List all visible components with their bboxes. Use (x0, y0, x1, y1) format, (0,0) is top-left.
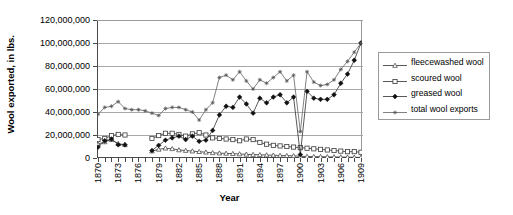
x-axis-tick (267, 158, 268, 162)
x-axis-tick (354, 158, 355, 162)
data-point-asterisk (143, 109, 147, 113)
data-point-diamond-filled (230, 105, 235, 110)
y-axis-tick-label: 100,000,000 (40, 38, 90, 48)
y-axis-tick-label: 0 (85, 153, 90, 163)
data-point-asterisk (103, 105, 107, 109)
x-axis-tick (327, 158, 328, 162)
x-axis-tick (334, 158, 335, 162)
data-point-square-open (197, 131, 201, 135)
series-total-wool-exports (97, 41, 362, 134)
y-axis-title-text: Wool exported, in lbs. (5, 35, 16, 134)
y-axis-tick-label: 40,000,000 (45, 107, 90, 117)
x-axis-tick-labels: 1870187318761879188218851888189118941897… (97, 163, 362, 193)
data-point-square-open (116, 132, 120, 136)
data-point-square-open (97, 138, 100, 142)
data-point-square-open (217, 136, 221, 140)
x-axis-tick (132, 158, 133, 162)
legend-item[interactable]: total wool exports (382, 104, 484, 115)
x-axis-tick (219, 158, 220, 162)
legend-label: fleecewashed wool (411, 57, 484, 68)
data-point-diamond-filled (257, 96, 262, 101)
x-axis-tick (246, 158, 247, 162)
legend-marker-square-open-icon (382, 73, 408, 84)
data-point-square-open (359, 150, 362, 154)
data-point-asterisk (265, 81, 269, 85)
y-axis-tick-labels: 020,000,00040,000,00060,000,00080,000,00… (18, 0, 94, 215)
data-point-asterisk (393, 110, 397, 114)
y-axis-tick-label: 80,000,000 (45, 61, 90, 71)
data-point-asterisk (217, 76, 221, 80)
x-axis-tick (307, 158, 308, 162)
x-axis-tick-label: 1882 (174, 163, 184, 183)
x-axis-tick (192, 158, 193, 162)
x-axis-tick (125, 158, 126, 162)
x-axis-tick (253, 158, 254, 162)
legend-item[interactable]: fleecewashed wool (382, 57, 484, 68)
data-point-asterisk (258, 78, 262, 82)
x-axis-tick (280, 158, 281, 162)
legend-marker-diamond-filled-icon (382, 88, 408, 99)
data-point-square-open (271, 143, 275, 147)
x-axis-tick (159, 158, 160, 162)
data-point-asterisk (170, 105, 174, 109)
x-axis-tick (179, 158, 180, 162)
x-axis-tick-label: 1903 (316, 163, 326, 183)
data-point-square-open (258, 140, 262, 144)
data-point-square-open (123, 133, 127, 137)
legend-item[interactable]: scoured wool (382, 73, 484, 84)
x-axis-tick-label: 1885 (194, 163, 204, 183)
data-point-asterisk (298, 130, 302, 134)
data-point-square-open (339, 149, 343, 153)
data-point-asterisk (157, 113, 161, 117)
x-axis-tick (273, 158, 274, 162)
chart-container: Wool exported, in lbs. 020,000,00040,000… (0, 0, 513, 215)
legend-marker-asterisk-icon (382, 104, 408, 115)
x-axis-tick (260, 158, 261, 162)
x-axis-tick (226, 158, 227, 162)
data-point-square-open (352, 150, 356, 154)
x-axis-tick (145, 158, 146, 162)
data-point-square-open (170, 131, 174, 135)
data-point-square-open (264, 142, 268, 146)
x-axis-tick (213, 158, 214, 162)
data-point-square-open (238, 139, 242, 143)
x-axis-title: Year (97, 192, 362, 203)
chart-legend: fleecewashed woolscoured woolgreased woo… (378, 52, 490, 120)
data-point-diamond-filled (170, 135, 175, 140)
data-point-square-open (312, 147, 316, 151)
chart-series-layer (97, 20, 362, 158)
data-point-square-open (251, 138, 255, 142)
data-point-asterisk (231, 78, 235, 82)
x-axis-tick (321, 158, 322, 162)
x-axis-tick-label: 1906 (336, 163, 346, 183)
legend-label: greased wool (411, 88, 462, 99)
data-point-asterisk (251, 87, 255, 91)
legend-item[interactable]: greased wool (382, 88, 484, 99)
x-axis-tick (186, 158, 187, 162)
x-axis-tick-label: 1897 (275, 163, 285, 183)
x-axis-tick-label: 1888 (214, 163, 224, 183)
data-point-square-open (305, 146, 309, 150)
y-axis-tick-label: 20,000,000 (45, 130, 90, 140)
data-point-diamond-filled (210, 128, 215, 133)
x-axis-tick (152, 158, 153, 162)
data-point-square-open (224, 137, 228, 141)
legend-label: scoured wool (411, 73, 462, 84)
data-point-asterisk (197, 118, 201, 122)
y-axis-title: Wool exported, in lbs. (2, 14, 18, 154)
y-axis-tick-label: 60,000,000 (45, 84, 90, 94)
x-axis-tick (118, 158, 119, 162)
data-point-asterisk (244, 79, 248, 83)
data-point-diamond-filled (325, 97, 330, 102)
data-point-asterisk (305, 70, 309, 74)
series-line (98, 43, 361, 132)
x-axis-tick (199, 158, 200, 162)
x-axis-tick (287, 158, 288, 162)
data-point-asterisk (150, 111, 154, 115)
x-axis-tick-label: 1909 (356, 163, 366, 183)
data-point-square-open (231, 138, 235, 142)
x-axis-tick (111, 158, 112, 162)
x-axis-tick (172, 158, 173, 162)
x-axis-tick (294, 158, 295, 162)
data-point-diamond-filled (318, 97, 323, 102)
